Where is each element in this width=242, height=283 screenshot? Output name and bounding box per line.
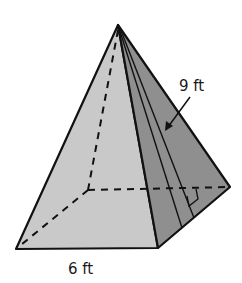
slant-height-label: 9 ft: [179, 77, 204, 95]
square-pyramid-diagram: 9 ft 6 ft: [0, 0, 242, 283]
base-edge-label: 6 ft: [68, 260, 93, 278]
